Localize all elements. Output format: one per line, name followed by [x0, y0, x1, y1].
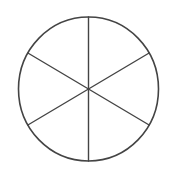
- divided-circle-diagram: [0, 0, 169, 176]
- sector-dividers: [28, 17, 149, 161]
